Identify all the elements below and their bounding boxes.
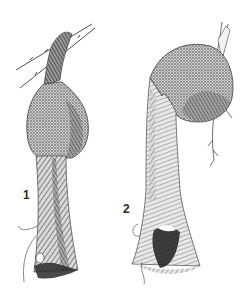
figure-label-2: 2 <box>123 203 130 215</box>
loose-fiber-icon <box>18 226 38 282</box>
nest-1 <box>16 24 95 282</box>
figure-label-1: 1 <box>23 189 30 201</box>
nest-2 <box>132 22 233 284</box>
illustration-canvas: 1 2 <box>0 0 248 289</box>
nest-drawing <box>0 0 248 289</box>
